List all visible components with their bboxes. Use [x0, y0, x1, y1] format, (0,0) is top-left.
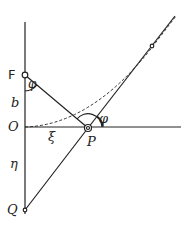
label-P: P — [87, 135, 96, 148]
line-QP — [25, 128, 88, 210]
label-phi-top: φ — [28, 78, 36, 90]
point-P-inner — [87, 127, 90, 130]
label-F: F — [8, 68, 15, 81]
label-b: b — [11, 96, 19, 109]
label-eta: η — [10, 157, 18, 170]
label-O: O — [8, 120, 19, 133]
diagram: F φ b O ξ P φ η Q — [0, 0, 189, 232]
point-Q — [23, 208, 27, 212]
curve-point — [150, 44, 154, 48]
label-Q: Q — [7, 203, 18, 216]
label-phi-right: φ — [99, 112, 108, 125]
diagram-graphics — [0, 0, 189, 232]
label-xi: ξ — [48, 130, 55, 143]
point-F — [22, 72, 28, 78]
